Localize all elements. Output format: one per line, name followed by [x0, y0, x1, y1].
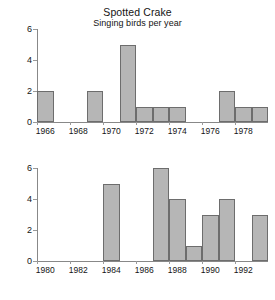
x-tick-label-bottom-1990: 1990 — [201, 265, 220, 275]
x-tick-mark-top-1976 — [202, 122, 203, 125]
bar-1984 — [103, 184, 120, 262]
x-tick-mark-bottom-1980 — [37, 261, 38, 264]
x-tick-label-top-1976: 1976 — [201, 126, 220, 136]
bar-1987 — [153, 168, 170, 261]
bar-1991 — [219, 199, 236, 261]
y-tick-mark — [33, 60, 37, 61]
x-tick-mark-top-1968 — [70, 122, 71, 125]
chart-panel-bottom: 02461980198219841986198819901992 — [0, 150, 275, 300]
x-tick-mark-bottom-1990 — [202, 261, 203, 264]
chart-panel-top: 02461966196819701972197419761978 — [0, 0, 275, 150]
y-tick-label: 4 — [27, 56, 32, 65]
bar-1969 — [87, 91, 104, 122]
bar-1972 — [136, 107, 153, 123]
x-tick-label-top-1972: 1972 — [135, 126, 154, 136]
bar-1971 — [120, 45, 137, 123]
bar-1974 — [169, 107, 186, 123]
y-tick-label: 2 — [27, 87, 32, 96]
x-tick-mark-bottom-1986 — [136, 261, 137, 264]
y-tick-label: 0 — [27, 118, 32, 127]
bar-1973 — [153, 107, 170, 123]
plot-area-bottom: 02461980198219841986198819901992 — [37, 168, 268, 261]
x-tick-mark-top-1970 — [103, 122, 104, 125]
y-tick-label: 6 — [27, 164, 32, 173]
x-axis-line-top — [37, 122, 268, 123]
x-tick-mark-bottom-1988 — [169, 261, 170, 264]
x-tick-mark-top-1972 — [136, 122, 137, 125]
bar-1988 — [169, 199, 186, 261]
x-tick-label-bottom-1988: 1988 — [168, 265, 187, 275]
x-tick-label-top-1966: 1966 — [36, 126, 55, 136]
bar-1989 — [186, 246, 203, 262]
y-tick-mark — [33, 29, 37, 30]
x-tick-label-top-1970: 1970 — [102, 126, 121, 136]
x-tick-mark-top-1978 — [235, 122, 236, 125]
bar-1990 — [202, 215, 219, 262]
x-tick-label-bottom-1992: 1992 — [234, 265, 253, 275]
x-tick-label-top-1978: 1978 — [234, 126, 253, 136]
y-tick-label: 2 — [27, 226, 32, 235]
y-tick-label: 0 — [27, 257, 32, 266]
x-tick-mark-top-1974 — [169, 122, 170, 125]
x-tick-label-bottom-1982: 1982 — [69, 265, 88, 275]
spotted-crake-figure: Spotted Crake Singing birds per year 024… — [0, 0, 275, 300]
plot-area-top: 02461966196819701972197419761978 — [37, 29, 268, 122]
bar-1966 — [37, 91, 54, 122]
y-axis-line-bottom — [37, 168, 38, 261]
x-tick-label-bottom-1980: 1980 — [36, 265, 55, 275]
x-tick-label-bottom-1984: 1984 — [102, 265, 121, 275]
y-tick-mark — [33, 168, 37, 169]
x-tick-label-bottom-1986: 1986 — [135, 265, 154, 275]
x-tick-mark-bottom-1992 — [235, 261, 236, 264]
x-tick-mark-bottom-1982 — [70, 261, 71, 264]
bar-1977 — [219, 91, 236, 122]
x-tick-label-top-1974: 1974 — [168, 126, 187, 136]
x-tick-mark-top-1966 — [37, 122, 38, 125]
y-tick-label: 6 — [27, 25, 32, 34]
x-axis-line-bottom — [37, 261, 268, 262]
bar-1979 — [252, 107, 269, 123]
x-tick-label-top-1968: 1968 — [69, 126, 88, 136]
y-tick-mark — [33, 230, 37, 231]
bar-1978 — [235, 107, 252, 123]
y-tick-mark — [33, 199, 37, 200]
bar-1993 — [252, 215, 269, 262]
y-tick-label: 4 — [27, 195, 32, 204]
x-tick-mark-bottom-1984 — [103, 261, 104, 264]
